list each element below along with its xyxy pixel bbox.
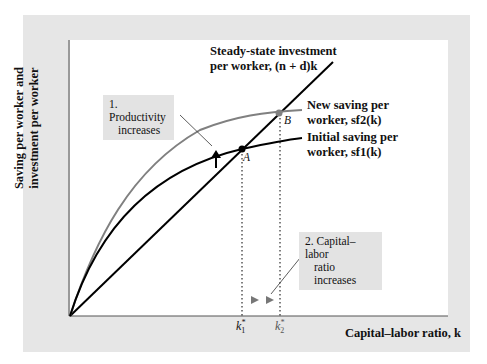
right-triangle-icon [251, 296, 259, 304]
y-axis-label: Saving per worker and investment per wor… [12, 38, 42, 218]
initial-saving-label: Initial saving per worker, sf1(k) [307, 130, 398, 160]
investment-label: Steady-state investment per worker, (n +… [210, 44, 337, 74]
note-productivity: 1. Productivity increases [103, 95, 174, 140]
x-axis-label: Capital–labor ratio, k [345, 326, 461, 341]
note1-leader [180, 115, 212, 146]
initial-saving-curve [70, 138, 302, 316]
point-a-label: A [243, 151, 250, 163]
point-b [276, 110, 283, 117]
note2-leader [271, 258, 300, 294]
new-saving-label: New saving per worker, sf2(k) [307, 98, 389, 128]
right-triangle-icon [266, 296, 274, 304]
point-b-label: B [284, 114, 291, 126]
up-arrow-icon [211, 150, 221, 168]
note-capital-labor: 2. Capital–labor ratio increases [299, 232, 382, 290]
new-saving-curve [70, 110, 302, 316]
tick-k2: k*2 [275, 318, 284, 335]
tick-k1: k*1 [236, 318, 245, 335]
